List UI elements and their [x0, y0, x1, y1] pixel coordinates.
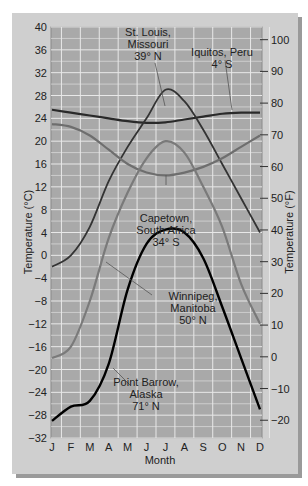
series-annotation: Point Barrow, — [113, 376, 178, 388]
y-right-tick-label: 80 — [271, 97, 283, 109]
y-tick-label: −4 — [34, 272, 47, 284]
x-tick-label: D — [256, 441, 264, 453]
y-tick-label: 40 — [35, 21, 47, 33]
x-axis-title: Month — [145, 454, 176, 466]
y-tick-label: 8 — [41, 204, 47, 216]
x-tick-label: N — [237, 441, 245, 453]
series-annotation: South Africa — [136, 224, 196, 236]
y-tick-label: 24 — [35, 112, 47, 124]
y-tick-label: 32 — [35, 67, 47, 79]
y-right-tick-label: 70 — [271, 129, 283, 141]
series-annotation: 34° S — [152, 236, 179, 248]
y-right-tick-label: 60 — [271, 161, 283, 173]
y-tick-label: −28 — [28, 409, 47, 421]
series-annotation: Capetown, — [140, 212, 193, 224]
series-annotation: Manitoba — [170, 302, 216, 314]
y-tick-label: 4 — [41, 227, 47, 239]
y-right-tick-label: 0 — [271, 351, 277, 363]
x-axis-ticks: JFMAMJJASOND — [49, 441, 264, 453]
series-annotation: 50° N — [179, 314, 207, 326]
x-tick-label: F — [68, 441, 75, 453]
y-tick-label: 12 — [35, 181, 47, 193]
series-annotation: Missouri — [128, 38, 169, 50]
x-tick-label: J — [163, 441, 169, 453]
series-annotation: Alaska — [129, 388, 163, 400]
x-tick-label: J — [49, 441, 55, 453]
y-right-tick-label: 100 — [271, 34, 289, 46]
y-tick-label: −24 — [28, 386, 47, 398]
y-right-tick-label: 90 — [271, 65, 283, 77]
y-right-tick-label: −20 — [271, 414, 290, 426]
y-tick-label: 20 — [35, 135, 47, 147]
y-right-tick-label: 40 — [271, 224, 283, 236]
y-tick-label: 28 — [35, 90, 47, 102]
y-tick-label: −32 — [28, 432, 47, 444]
x-tick-label: A — [181, 441, 189, 453]
x-tick-label: O — [218, 441, 227, 453]
y-right-tick-label: 10 — [271, 319, 283, 331]
y-axis-left-title: Temperature (°C) — [22, 190, 34, 274]
y-right-tick-label: 20 — [271, 287, 283, 299]
series-annotation: 71° N — [132, 400, 160, 412]
x-tick-label: M — [85, 441, 94, 453]
series-annotation: Winnipeg, — [169, 290, 218, 302]
y-tick-label: 16 — [35, 158, 47, 170]
y-tick-label: −20 — [28, 364, 47, 376]
y-axis-right-title: Temperature (°F) — [283, 190, 295, 273]
y-tick-label: −16 — [28, 341, 47, 353]
y-tick-label: 0 — [41, 249, 47, 261]
series-annotation: St. Louis, — [125, 26, 171, 38]
x-tick-label: M — [123, 441, 132, 453]
series-annotation: Iquitos, Peru — [191, 46, 253, 58]
x-tick-label: J — [144, 441, 150, 453]
y-right-tick-label: 50 — [271, 192, 283, 204]
series-annotation: 39° N — [134, 50, 162, 62]
y-right-tick-label: −10 — [271, 383, 290, 395]
x-tick-label: S — [200, 441, 207, 453]
series-annotation: 4° S — [212, 58, 233, 70]
x-tick-label: A — [105, 441, 113, 453]
y-tick-label: 36 — [35, 44, 47, 56]
temperature-chart: 4036322824201612840−4−8−12−16−20−24−28−3… — [0, 0, 308, 486]
y-tick-label: −12 — [28, 318, 47, 330]
y-right-tick-label: 30 — [271, 256, 283, 268]
y-tick-label: −8 — [34, 295, 47, 307]
